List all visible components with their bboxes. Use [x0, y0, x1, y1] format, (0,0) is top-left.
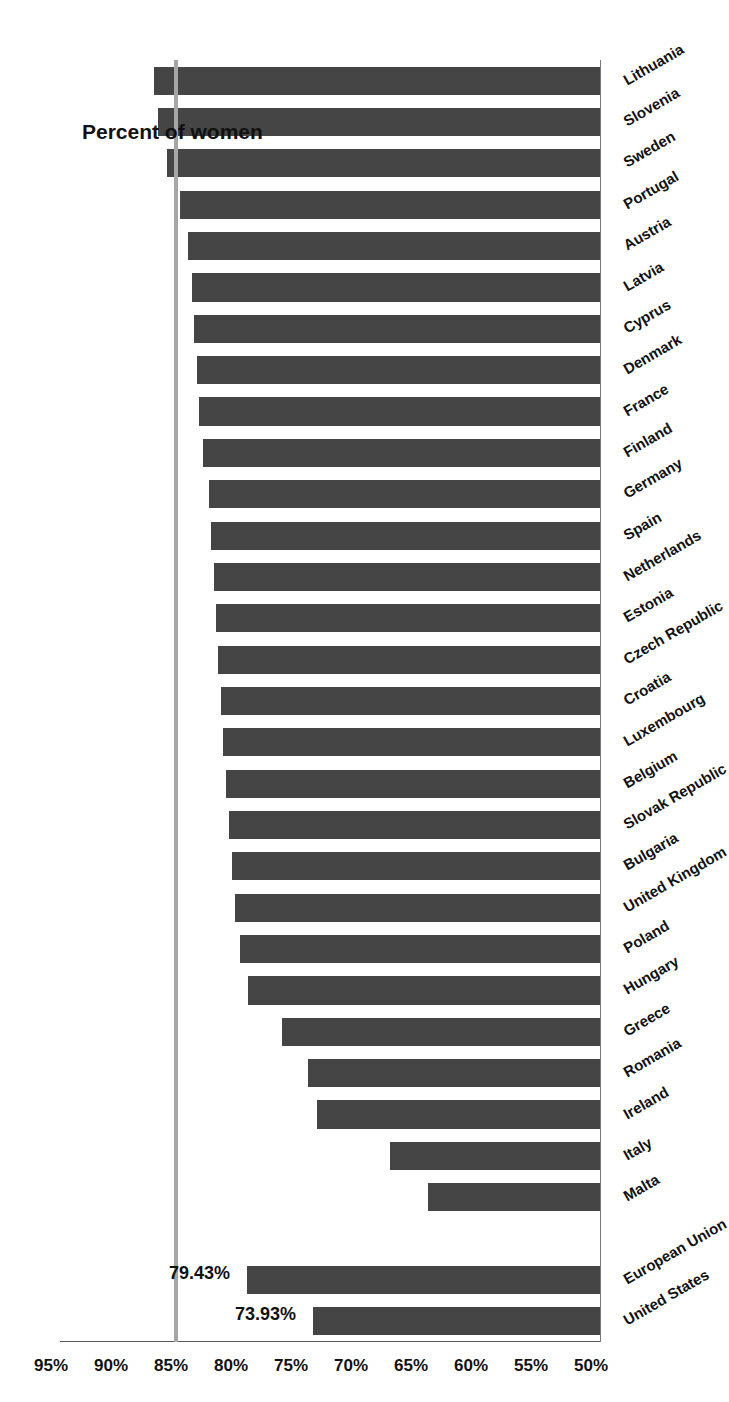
bar: [218, 646, 600, 674]
bar: [197, 356, 600, 384]
category-axis-line: [600, 60, 601, 1342]
bar: [188, 232, 600, 260]
bar: [229, 811, 600, 839]
category-label: Slovenia: [620, 84, 682, 130]
plot-area: 95%90%85%80%75%70%65%60%55%50% United St…: [60, 60, 600, 1342]
category-label: Italy: [620, 1134, 654, 1164]
plot-frame-left: [60, 1341, 600, 1342]
bar: [216, 604, 600, 632]
category-label: Denmark: [620, 331, 684, 378]
bar: [209, 480, 600, 508]
bar: [248, 976, 600, 1004]
category-label: Spain: [620, 508, 664, 543]
value-tick-label: 80%: [214, 1356, 248, 1376]
bar: [428, 1183, 600, 1211]
bar: [390, 1142, 600, 1170]
category-label: Portugal: [620, 167, 681, 212]
value-axis-title: Percent of women: [82, 120, 263, 144]
category-label: Romania: [620, 1034, 683, 1080]
category-label: Bulgaria: [620, 829, 680, 874]
bar: [235, 894, 600, 922]
category-label: Estonia: [620, 584, 675, 626]
value-tick-label: 70%: [334, 1356, 368, 1376]
bar: [154, 67, 600, 95]
bar: [240, 935, 600, 963]
value-tick-label: 55%: [514, 1356, 548, 1376]
bar: [317, 1101, 600, 1129]
value-tick-label: 85%: [154, 1356, 188, 1376]
category-label: Austria: [620, 213, 673, 254]
category-label: Finland: [620, 419, 675, 460]
bar-series: [60, 60, 600, 1342]
bar: [199, 397, 600, 425]
bar: [211, 522, 600, 550]
bar: [282, 1018, 600, 1046]
category-label: Sweden: [620, 128, 678, 171]
value-tick-label: 90%: [94, 1356, 128, 1376]
bar: [247, 1266, 600, 1294]
category-label: Latvia: [620, 258, 666, 294]
bar-data-label: 79.43%: [169, 1263, 230, 1284]
bar: [308, 1059, 600, 1087]
bar-data-label: 73.93%: [235, 1304, 296, 1325]
bar: [192, 273, 600, 301]
value-tick-label: 60%: [454, 1356, 488, 1376]
value-tick-label: 75%: [274, 1356, 308, 1376]
bar: [214, 563, 600, 591]
category-label: Ireland: [620, 1083, 671, 1122]
value-tick-label: 95%: [34, 1356, 68, 1376]
category-label: Greece: [620, 999, 673, 1039]
bar: [203, 439, 600, 467]
bar: [180, 191, 600, 219]
bar: [221, 687, 600, 715]
bar: [226, 770, 600, 798]
bar: [194, 315, 600, 343]
reference-line: [174, 60, 178, 1342]
value-tick-label: 65%: [394, 1356, 428, 1376]
category-label: Belgium: [620, 747, 680, 791]
bar: [313, 1307, 600, 1335]
category-label: France: [620, 380, 671, 419]
category-label: Germany: [620, 454, 685, 501]
category-label: Lithuania: [620, 40, 686, 88]
category-label: Malta: [620, 1171, 662, 1205]
value-tick-label: 50%: [574, 1356, 608, 1376]
category-label: European Union: [620, 1215, 729, 1288]
bar: [223, 728, 600, 756]
category-label: Poland: [620, 917, 672, 957]
category-label: Hungary: [620, 953, 681, 998]
bar: [232, 852, 600, 880]
category-label: Croatia: [620, 668, 673, 709]
category-label: Cyprus: [620, 296, 673, 337]
bar: [167, 149, 600, 177]
